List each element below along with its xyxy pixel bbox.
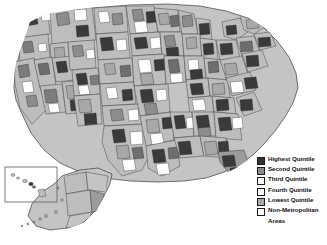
legend-item-lowest: Lowest Quintile [257,197,327,206]
legend-item-third: Third Quintile [257,176,327,185]
legend-label-third: Third Quintile [268,176,308,183]
legend-swatch-third [257,177,265,185]
legend-label-second: Second Quintile [268,166,314,173]
legend-swatch-highest [257,157,265,165]
map-legend: Highest Quintile Second Quintile Third Q… [257,156,327,224]
legend-swatch-non-metro [257,208,265,216]
legend-item-second: Second Quintile [257,166,327,175]
legend-label-highest: Highest Quintile [268,156,315,163]
legend-swatch-second [257,167,265,175]
legend-label-non-metro-line2: Areas [268,217,327,224]
legend-item-highest: Highest Quintile [257,156,327,165]
lower48-group [14,4,298,194]
alaska-inset [21,168,112,230]
legend-item-non-metro: Non-Metropolitan [257,207,327,216]
legend-label-lowest: Lowest Quintile [268,197,313,204]
legend-label-fourth: Fourth Quintile [268,187,312,194]
legend-item-fourth: Fourth Quintile [257,187,327,196]
legend-swatch-lowest [257,198,265,206]
legend-label-non-metro: Non-Metropolitan [268,207,318,214]
legend-swatch-fourth [257,188,265,196]
map-figure: Highest Quintile Second Quintile Third Q… [0,0,327,245]
